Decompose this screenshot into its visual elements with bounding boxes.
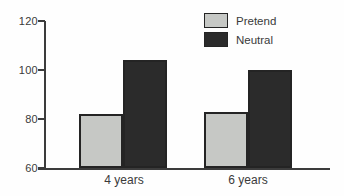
legend-swatch-neutral xyxy=(204,32,228,47)
legend-item-pretend: Pretend xyxy=(204,13,276,28)
legend-swatch-pretend xyxy=(204,13,228,28)
y-tick-60 xyxy=(38,167,45,169)
y-tick-label-80: 80 xyxy=(4,114,38,125)
category-label-6-years: 6 years xyxy=(228,173,267,187)
legend-label-neutral: Neutral xyxy=(236,34,273,46)
bar-4-years-neutral xyxy=(123,60,167,168)
y-tick-label-60: 60 xyxy=(4,163,38,174)
y-tick-80 xyxy=(38,118,45,120)
bar-6-years-pretend xyxy=(204,112,248,168)
category-label-4-years: 4 years xyxy=(104,173,143,187)
legend-label-pretend: Pretend xyxy=(236,15,276,27)
y-axis-line xyxy=(44,21,46,169)
y-tick-100 xyxy=(38,69,45,71)
y-tick-label-100: 100 xyxy=(4,65,38,76)
x-axis-line xyxy=(38,168,330,170)
bar-chart-figure: 6080100120 4 years 6 years Pretend Neutr… xyxy=(0,0,344,196)
legend: Pretend Neutral xyxy=(204,13,276,51)
y-tick-label-120: 120 xyxy=(4,16,38,27)
y-tick-120 xyxy=(38,20,45,22)
bar-6-years-neutral xyxy=(248,70,292,168)
legend-item-neutral: Neutral xyxy=(204,32,276,47)
bar-4-years-pretend xyxy=(79,114,123,168)
